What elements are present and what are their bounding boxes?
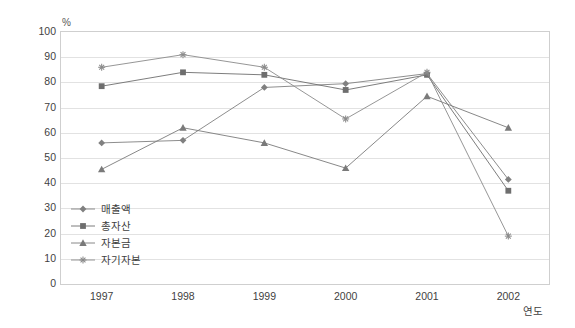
legend-item: 총자산	[70, 217, 141, 234]
legend-item: 자본금	[70, 234, 141, 251]
legend-label: 자기자본	[101, 254, 141, 266]
data-point-triangle	[505, 124, 512, 131]
data-point-diamond	[180, 137, 187, 144]
legend-marker-asterisk-icon	[70, 254, 96, 266]
data-point-asterisk	[98, 64, 105, 71]
data-point-asterisk	[261, 64, 268, 71]
data-point-asterisk	[342, 115, 349, 122]
data-point-square	[180, 69, 186, 75]
data-point-square	[343, 87, 349, 93]
series-0	[98, 70, 511, 183]
data-point-diamond	[80, 205, 87, 212]
legend-label: 자본금	[101, 237, 131, 249]
data-point-square	[261, 72, 267, 78]
data-point-asterisk	[180, 51, 187, 58]
data-point-asterisk	[80, 256, 87, 263]
data-point-asterisk	[424, 69, 431, 76]
legend-label: 총자산	[101, 220, 131, 232]
data-point-triangle	[98, 166, 105, 173]
line-chart: % 1009080706050403020100 199719981999200…	[0, 0, 575, 328]
data-point-diamond	[342, 80, 349, 87]
data-point-asterisk	[505, 233, 512, 240]
legend-label: 매출액	[101, 203, 131, 215]
chart-legend: 매출액총자산자본금자기자본	[70, 200, 141, 268]
legend-item: 매출액	[70, 200, 141, 217]
series-2	[98, 93, 512, 173]
data-point-diamond	[261, 84, 268, 91]
data-point-square	[99, 83, 105, 89]
legend-marker-square-icon	[70, 220, 96, 232]
series-3	[98, 51, 512, 239]
data-point-triangle	[179, 124, 186, 131]
series-1	[99, 69, 511, 193]
series-layer	[0, 0, 575, 328]
legend-item: 자기자본	[70, 251, 141, 268]
legend-marker-triangle-icon	[70, 237, 96, 249]
data-point-square	[505, 188, 511, 194]
legend-marker-diamond-icon	[70, 203, 96, 215]
data-point-diamond	[98, 139, 105, 146]
data-point-square	[80, 223, 86, 229]
data-point-triangle	[423, 93, 430, 100]
